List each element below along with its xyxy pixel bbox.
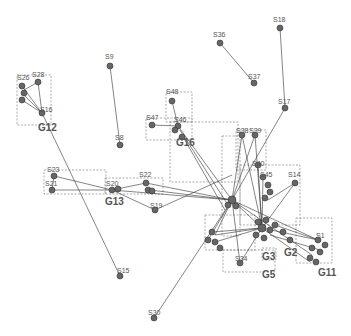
node[interactable] bbox=[233, 203, 239, 209]
node[interactable] bbox=[263, 217, 269, 223]
node-s18[interactable] bbox=[277, 25, 283, 31]
label-s15: S15 bbox=[117, 267, 130, 274]
label-s18: S18 bbox=[273, 16, 286, 23]
label-s46: S46 bbox=[174, 116, 187, 123]
node[interactable] bbox=[209, 229, 215, 235]
node[interactable] bbox=[307, 255, 313, 261]
node-s8[interactable] bbox=[117, 142, 123, 148]
node[interactable] bbox=[287, 237, 293, 243]
label-s8: S8 bbox=[115, 134, 124, 141]
label-s30: S30 bbox=[148, 309, 161, 316]
node[interactable] bbox=[272, 222, 278, 228]
node-s22[interactable] bbox=[143, 180, 149, 186]
node[interactable] bbox=[255, 219, 261, 225]
node[interactable] bbox=[322, 242, 328, 248]
node[interactable] bbox=[225, 202, 231, 208]
node-s23[interactable] bbox=[51, 173, 57, 179]
group-label-g2: G2 bbox=[284, 247, 298, 258]
label-s19: S19 bbox=[150, 202, 163, 209]
label-s34: S34 bbox=[235, 255, 248, 262]
node[interactable] bbox=[205, 237, 211, 243]
node-s48[interactable] bbox=[169, 98, 175, 104]
node-s21[interactable] bbox=[49, 187, 55, 193]
label-s26: S26 bbox=[17, 74, 30, 81]
label-s22: S22 bbox=[139, 171, 152, 178]
label-s37: S37 bbox=[248, 73, 261, 80]
label-s40: S40 bbox=[252, 160, 265, 167]
label-s17: S17 bbox=[278, 98, 291, 105]
node-s28[interactable] bbox=[35, 79, 41, 85]
node[interactable] bbox=[280, 229, 286, 235]
node[interactable] bbox=[19, 97, 25, 103]
group-label-g16: G16 bbox=[176, 137, 195, 148]
label-s14: S14 bbox=[288, 171, 301, 178]
group-label-g11: G11 bbox=[318, 267, 337, 278]
label-s45: S45 bbox=[260, 171, 273, 178]
label-s48: S48 bbox=[166, 88, 179, 95]
node[interactable] bbox=[212, 239, 218, 245]
node[interactable] bbox=[261, 235, 267, 241]
node-s17[interactable] bbox=[282, 105, 288, 111]
node-labels: S26 S28 S16 S9 S8 S36 S37 S18 S17 S48 S4… bbox=[17, 16, 325, 316]
group-label-g12: G12 bbox=[38, 122, 57, 133]
node[interactable] bbox=[262, 195, 268, 201]
group-box-center bbox=[222, 136, 240, 236]
label-s39: S39 bbox=[249, 127, 262, 134]
node[interactable] bbox=[317, 249, 323, 255]
label-s38: S38 bbox=[236, 127, 249, 134]
label-s36: S36 bbox=[213, 31, 226, 38]
node[interactable] bbox=[258, 224, 266, 232]
node-s9[interactable] bbox=[107, 63, 113, 69]
node[interactable] bbox=[313, 259, 319, 265]
group-label-g3: G3 bbox=[262, 251, 276, 262]
node[interactable] bbox=[172, 127, 178, 133]
node-s47[interactable] bbox=[149, 122, 155, 128]
nodes bbox=[19, 25, 328, 321]
label-s20: S20 bbox=[106, 180, 119, 187]
label-s21: S21 bbox=[45, 180, 58, 187]
node[interactable] bbox=[265, 182, 271, 188]
node[interactable] bbox=[309, 245, 315, 251]
label-s23: S23 bbox=[47, 166, 60, 173]
network-graph: S26 S28 S16 S9 S8 S36 S37 S18 S17 S48 S4… bbox=[0, 0, 351, 336]
label-s1: S1 bbox=[316, 232, 325, 239]
node[interactable] bbox=[267, 189, 273, 195]
node[interactable] bbox=[267, 227, 273, 233]
node-s36[interactable] bbox=[217, 40, 223, 46]
node-s37[interactable] bbox=[251, 80, 257, 86]
label-s16: S16 bbox=[40, 106, 53, 113]
label-s28: S28 bbox=[32, 71, 45, 78]
group-label-g5: G5 bbox=[262, 269, 276, 280]
group-labels: G12 G16 G13 G3 G2 G5 G11 bbox=[38, 122, 337, 280]
node[interactable] bbox=[21, 90, 27, 96]
label-s47: S47 bbox=[146, 114, 159, 121]
node-s20[interactable] bbox=[109, 187, 115, 193]
node-s26[interactable] bbox=[19, 83, 25, 89]
node[interactable] bbox=[149, 188, 155, 194]
node[interactable] bbox=[253, 232, 259, 238]
node-s14[interactable] bbox=[292, 180, 298, 186]
group-label-g13: G13 bbox=[105, 196, 124, 207]
node[interactable] bbox=[217, 245, 223, 251]
label-s9: S9 bbox=[105, 53, 114, 60]
